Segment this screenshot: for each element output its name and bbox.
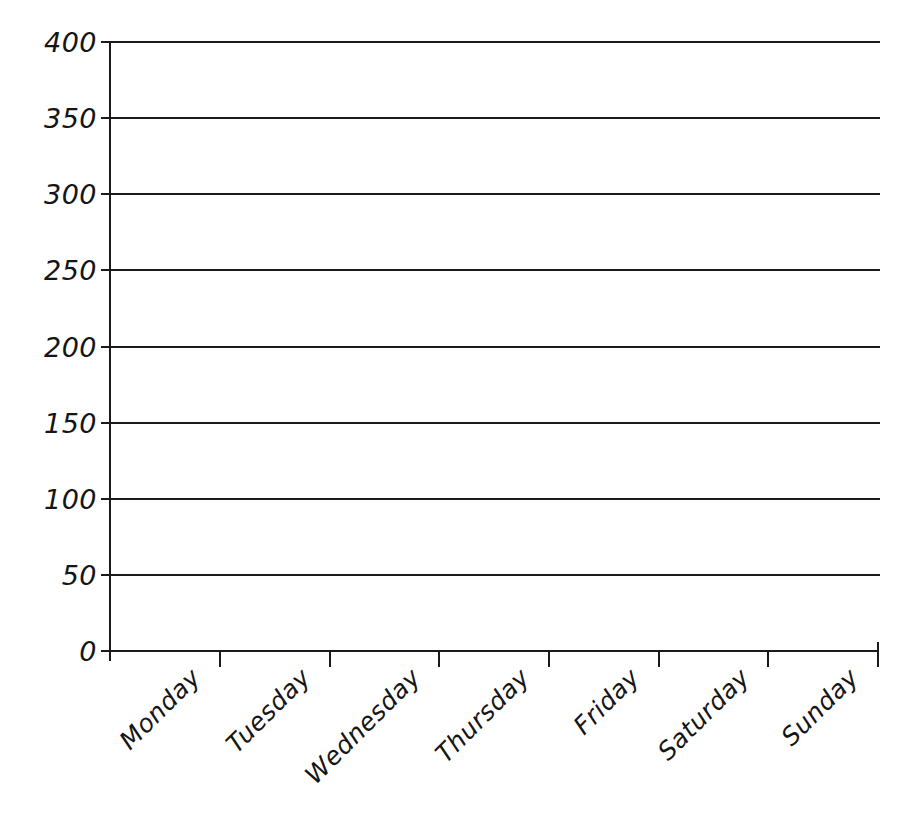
y-tick-label-0: 0 — [79, 636, 97, 667]
y-tick-label-400: 400 — [44, 27, 97, 58]
y-tick-label-350: 350 — [44, 103, 97, 134]
y-tick-label-300: 300 — [44, 179, 97, 210]
y-tick-label-100: 100 — [44, 484, 97, 515]
y-tick-label-150: 150 — [44, 408, 97, 439]
y-tick-label-200: 200 — [44, 332, 97, 363]
chart-canvas: 400 350 300 250 200 150 100 50 0 Monday … — [0, 0, 911, 827]
chart-container: 400 350 300 250 200 150 100 50 0 Monday … — [0, 0, 911, 827]
chart-background — [0, 0, 911, 827]
y-tick-label-50: 50 — [62, 560, 97, 591]
y-tick-label-250: 250 — [44, 255, 97, 286]
